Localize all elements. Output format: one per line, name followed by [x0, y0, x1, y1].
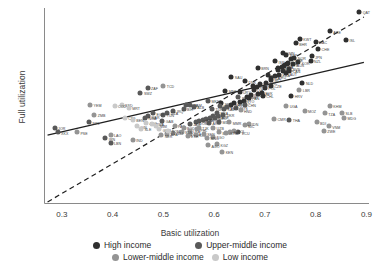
- point-label: TJK: [202, 127, 209, 131]
- point-label: BLR: [231, 107, 238, 111]
- legend-row-1: High incomeUpper-middle income: [93, 240, 287, 250]
- data-point: [314, 120, 319, 125]
- data-point: [268, 78, 273, 83]
- data-point: [302, 109, 307, 114]
- data-point: [297, 88, 302, 93]
- data-point: [243, 79, 248, 84]
- data-point: [284, 52, 289, 57]
- point-label: KEN: [226, 151, 234, 155]
- x-tick-label: 0.3: [47, 210, 77, 219]
- data-point: [187, 121, 192, 126]
- data-point: [327, 29, 332, 34]
- point-label: BDI: [320, 122, 326, 126]
- data-point: [112, 104, 117, 109]
- point-label: NER: [165, 135, 173, 139]
- identity-line: [48, 17, 364, 202]
- data-point: [255, 66, 260, 71]
- point-label: MMR: [233, 122, 242, 126]
- legend-swatch-icon: [93, 242, 100, 249]
- data-point: [210, 106, 215, 111]
- data-point: [217, 119, 222, 124]
- legend-label: Low income: [223, 252, 268, 262]
- point-label: SWZ: [144, 92, 152, 96]
- point-label: UGA: [290, 105, 298, 109]
- legend-item[interactable]: High income: [93, 240, 151, 250]
- data-point: [225, 105, 230, 110]
- point-label: SLB: [345, 112, 352, 116]
- point-label: UKR: [227, 114, 235, 118]
- data-point: [289, 94, 294, 99]
- point-label: BRN: [261, 67, 269, 71]
- point-label: MRT: [132, 107, 140, 111]
- x-tick-label: 0.5: [148, 210, 178, 219]
- legend-label: Upper-middle income: [206, 240, 287, 250]
- point-label: LBR: [303, 89, 310, 93]
- data-point: [159, 133, 164, 138]
- x-tick-label: 0.9: [351, 210, 380, 219]
- point-label: SLE: [144, 128, 151, 132]
- chart-root: Full utilization Basic utilization 0.30.…: [0, 0, 380, 273]
- data-point: [126, 106, 131, 111]
- point-label: CAN: [293, 70, 301, 74]
- point-label: COD: [118, 105, 126, 109]
- data-point: [293, 41, 298, 46]
- point-label: CHN: [248, 104, 256, 108]
- data-point: [223, 88, 228, 93]
- data-point: [75, 130, 80, 135]
- point-label: IND: [136, 139, 142, 143]
- data-point: [108, 132, 113, 137]
- point-label: HRV: [295, 95, 303, 99]
- data-point: [217, 130, 222, 135]
- point-label: ZWE: [327, 130, 335, 134]
- data-point: [273, 59, 278, 64]
- point-label: GBR: [282, 69, 290, 73]
- point-label: BGR: [250, 96, 258, 100]
- point-label: MLT: [274, 79, 281, 83]
- legend-label: Lower-middle income: [123, 252, 204, 262]
- plot-area: 0.30.40.50.60.70.80.9 0.30.40.50.60.70.8…: [44, 8, 369, 204]
- point-label: PSE: [80, 132, 87, 136]
- data-point: [316, 47, 321, 52]
- point-label: LAO: [114, 134, 121, 138]
- point-label: SGP: [290, 54, 298, 58]
- data-point: [327, 103, 332, 108]
- legend-item[interactable]: Lower-middle income: [112, 252, 204, 262]
- legend-row-2: Lower-middle incomeLow income: [112, 252, 268, 262]
- data-point: [161, 83, 166, 88]
- data-point: [297, 36, 302, 41]
- data-point: [206, 143, 211, 148]
- point-label: KWT: [303, 38, 311, 42]
- data-point: [108, 141, 113, 146]
- point-label: LBN: [114, 142, 121, 146]
- legend-swatch-icon: [212, 254, 219, 261]
- legend-item[interactable]: Upper-middle income: [195, 240, 287, 250]
- point-label: AUS: [297, 64, 305, 68]
- point-label: MNE: [229, 90, 237, 94]
- data-point: [220, 150, 225, 155]
- data-point: [185, 133, 190, 138]
- point-label: BEN: [136, 119, 144, 123]
- point-label: MNG: [210, 137, 219, 141]
- data-point: [342, 115, 347, 120]
- data-point: [322, 111, 327, 116]
- point-label: SOM: [172, 130, 180, 134]
- data-point: [92, 113, 97, 118]
- point-label: MDG: [348, 117, 357, 121]
- legend-item[interactable]: Low income: [212, 252, 268, 262]
- x-tick-label: 0.4: [98, 210, 128, 219]
- point-label: MOZ: [308, 110, 316, 114]
- point-label: KHM: [333, 105, 341, 109]
- point-label: CMR: [277, 118, 285, 122]
- data-point: [357, 9, 362, 14]
- point-label: ALB: [197, 106, 204, 110]
- data-point: [224, 131, 229, 136]
- point-label: PRY: [242, 97, 249, 101]
- data-point: [138, 126, 143, 131]
- point-label: NPL: [93, 122, 100, 126]
- data-point: [236, 95, 241, 100]
- data-point: [211, 126, 216, 131]
- data-point: [326, 124, 331, 129]
- data-point: [130, 117, 135, 122]
- point-label: AGO: [211, 145, 219, 149]
- point-label: CHE: [322, 48, 330, 52]
